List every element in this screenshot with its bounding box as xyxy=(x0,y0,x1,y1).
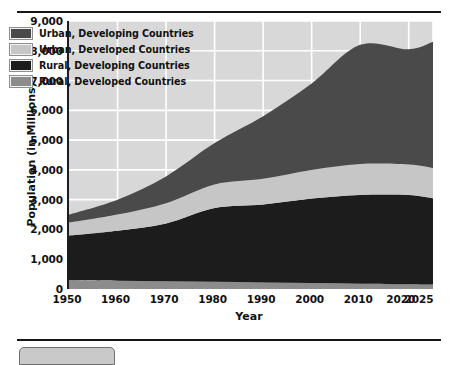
legend-swatch xyxy=(10,76,32,87)
legend-item[interactable]: Urban, Developed Countries xyxy=(10,41,194,57)
x-tick-label: 1980 xyxy=(198,293,227,305)
legend-item-label: Rural, Developed Countries xyxy=(39,76,186,87)
page-rule-bottom xyxy=(17,339,441,341)
legend-item[interactable]: Rural, Developing Countries xyxy=(10,57,194,73)
x-tick-label: 1970 xyxy=(150,293,179,305)
page-rule-top xyxy=(17,11,441,13)
x-axis-tick-labels: 195019601970198019902000201020202025 xyxy=(67,293,431,309)
legend-swatch xyxy=(10,44,32,55)
x-axis-title: Year xyxy=(67,310,431,323)
x-tick-label: 2000 xyxy=(295,293,324,305)
footer-tab[interactable] xyxy=(19,347,115,365)
legend-item-label: Rural, Developing Countries xyxy=(39,60,190,71)
x-tick-label: 2025 xyxy=(405,293,434,305)
chart-legend: Urban, Developing CountriesUrban, Develo… xyxy=(8,23,198,92)
legend-swatch xyxy=(10,28,32,39)
legend-item[interactable]: Urban, Developing Countries xyxy=(10,25,194,41)
x-tick-label: 1990 xyxy=(247,293,276,305)
population-area-chart: 01,0002,0003,0004,0005,0006,0007,0008,00… xyxy=(0,14,451,326)
x-tick-label: 1950 xyxy=(53,293,82,305)
x-tick-label: 1960 xyxy=(101,293,130,305)
legend-item-label: Urban, Developed Countries xyxy=(39,44,190,55)
legend-item-label: Urban, Developing Countries xyxy=(39,28,194,39)
x-tick-label: 2010 xyxy=(344,293,373,305)
legend-item[interactable]: Rural, Developed Countries xyxy=(10,73,194,89)
legend-swatch xyxy=(10,60,32,71)
